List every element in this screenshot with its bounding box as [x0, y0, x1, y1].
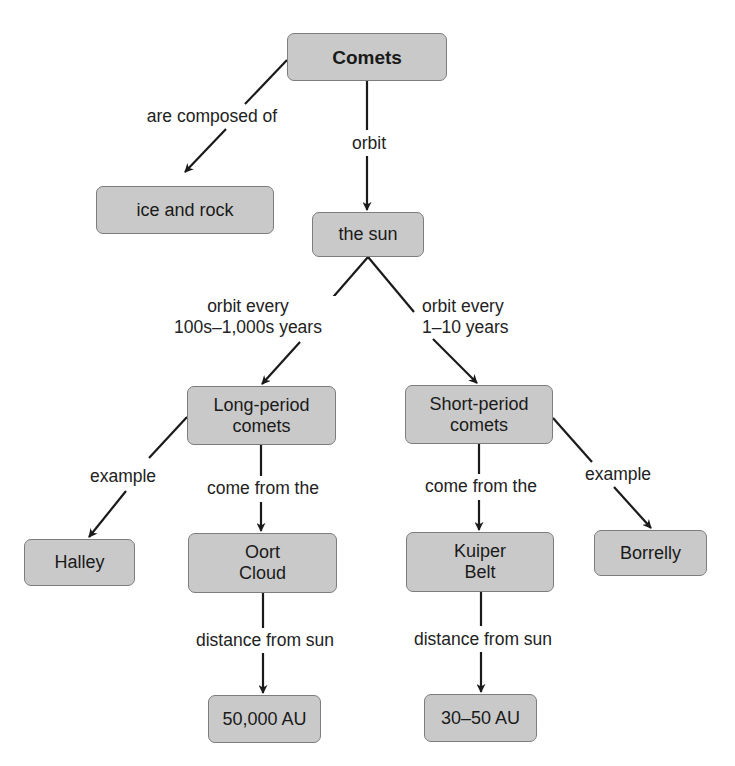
node-50000-au: 50,000 AU: [208, 695, 321, 743]
label-example-long: example: [80, 466, 166, 487]
arrow-long-halley-upper: [149, 417, 187, 458]
connector-arrows: [0, 0, 735, 766]
node-short-period-comets: Short-period comets: [405, 385, 553, 444]
node-comets: Comets: [287, 33, 447, 81]
arrow-long-halley-lower: [89, 491, 126, 537]
label-come-from-long: come from the: [193, 478, 333, 499]
node-borrelly: Borrelly: [594, 530, 707, 576]
arrow-sun-long-lower: [262, 342, 300, 384]
node-oort-cloud: Oort Cloud: [188, 533, 337, 593]
arrow-comets-ice-lower: [185, 129, 226, 172]
node-halley: Halley: [24, 539, 135, 586]
node-long-period-comets: Long-period comets: [187, 386, 336, 445]
label-are-composed-of: are composed of: [130, 106, 294, 127]
node-the-sun: the sun: [312, 212, 424, 257]
label-orbit-every-short: orbit every 1–10 years: [420, 296, 524, 338]
node-kuiper-belt: Kuiper Belt: [406, 532, 554, 592]
label-example-short: example: [575, 464, 661, 485]
node-30-50-au: 30–50 AU: [424, 694, 537, 742]
label-orbit-every-long: orbit every 100s–1,000s years: [156, 296, 340, 338]
arrow-comets-ice-upper: [245, 60, 287, 104]
label-orbit: orbit: [342, 133, 396, 154]
node-ice-and-rock: ice and rock: [96, 186, 274, 234]
label-distance-kuiper: distance from sun: [398, 629, 568, 650]
concept-map: Comets ice and rock the sun Long-period …: [0, 0, 735, 766]
label-come-from-short: come from the: [411, 476, 551, 497]
label-distance-oort: distance from sun: [180, 630, 350, 651]
arrow-sun-short-lower: [433, 339, 477, 383]
arrow-short-borrelly-lower: [614, 487, 651, 528]
arrow-sun-short-upper: [368, 257, 414, 312]
arrow-short-borrelly-upper: [553, 418, 592, 462]
